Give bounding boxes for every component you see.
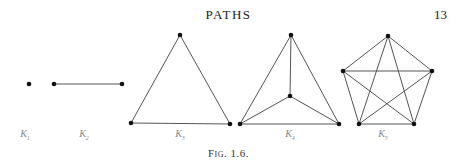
edge-k5 [388, 36, 432, 71]
vertex-k4 [289, 33, 294, 38]
vertex-k3 [178, 33, 183, 38]
vertex-k3 [129, 121, 134, 126]
graph-label-k2: K2 [79, 128, 89, 141]
graph-label-k1: K1 [20, 128, 30, 141]
edge-k5 [388, 36, 414, 124]
edge-k4 [240, 35, 291, 124]
vertex-k5 [412, 122, 417, 127]
vertex-k4 [288, 94, 293, 99]
vertex-k5 [430, 69, 435, 74]
vertex-k4 [238, 122, 243, 127]
vertex-k5 [357, 122, 362, 127]
edge-k5 [414, 71, 432, 124]
edge-k5 [343, 36, 388, 71]
edge-k4 [290, 35, 291, 96]
vertex-k5 [386, 34, 391, 39]
vertex-k4 [337, 122, 342, 127]
vertex-k2 [120, 82, 125, 87]
edge-k3 [180, 35, 230, 124]
figure-caption: Fig. 1.6. [0, 147, 457, 159]
edge-k5 [359, 36, 388, 124]
graph-edges [54, 35, 432, 124]
graph-label-k3: K3 [175, 128, 185, 141]
edge-k5 [343, 71, 414, 124]
vertex-k1 [27, 82, 32, 87]
graph-label-k4: K4 [285, 128, 295, 141]
graph-label-k5: K5 [378, 128, 388, 141]
edge-k5 [359, 71, 432, 124]
vertex-k5 [341, 69, 346, 74]
edge-k5 [343, 71, 359, 124]
edge-k3 [131, 35, 180, 123]
complete-graphs-figure [0, 0, 457, 162]
vertex-k3 [228, 122, 233, 127]
edge-k3 [131, 123, 230, 124]
vertex-k2 [52, 82, 57, 87]
